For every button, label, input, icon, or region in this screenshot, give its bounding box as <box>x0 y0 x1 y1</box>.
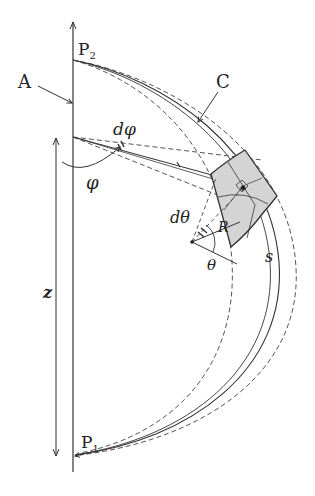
label-d-theta: dθ <box>170 208 190 227</box>
label-R: R <box>217 219 229 235</box>
theta-arc <box>206 225 215 252</box>
d-theta-marks <box>198 228 207 237</box>
C-arrow <box>198 92 218 122</box>
label-d-phi: dφ <box>113 119 136 139</box>
label-P1: P1 <box>81 432 99 454</box>
label-A: A <box>17 71 32 92</box>
outer-dashed-curve <box>73 60 296 455</box>
A-arrow <box>38 86 72 103</box>
diagram: P2 A C dφ φ dθ R θ s z P1 <box>0 0 315 496</box>
phi-arc <box>62 147 120 167</box>
d-phi-marks <box>118 141 124 150</box>
label-phi: φ <box>86 172 99 193</box>
label-z: z <box>42 283 53 302</box>
label-P2: P2 <box>78 39 96 61</box>
label-theta: θ <box>207 256 216 274</box>
label-C: C <box>216 71 230 92</box>
curve-C <box>73 60 279 455</box>
label-s: s <box>265 247 273 266</box>
R-center-dot <box>190 240 194 244</box>
